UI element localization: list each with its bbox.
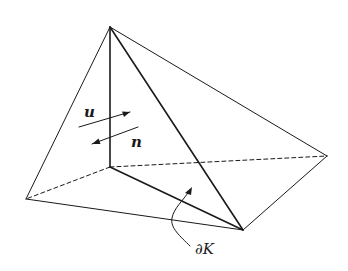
tetrahedron-diagram: u n ∂K [0,0,348,271]
label-n: n [131,133,142,151]
label-u: u [84,103,95,121]
edge-apex-front [110,27,243,230]
edge-apex-left [26,27,110,199]
hidden-edge-back-left [26,167,110,199]
edge-right-front [243,156,327,230]
hidden-edge-back-right [110,156,327,167]
label-boundary: ∂K [195,240,215,258]
edge-apex-right [110,27,327,156]
